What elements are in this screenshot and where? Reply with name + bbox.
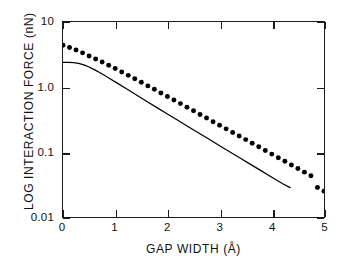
xtick-label-3: 3 <box>205 221 235 233</box>
xtick-mark-top-4 <box>273 22 274 29</box>
data-point <box>165 94 170 99</box>
xtick-mark-1 <box>116 210 117 217</box>
data-point <box>63 43 65 48</box>
data-point <box>302 170 307 175</box>
ytick-mark-1 <box>63 88 70 89</box>
data-point <box>132 76 137 81</box>
data-point <box>178 101 183 106</box>
xtick-mark-0 <box>63 210 64 217</box>
data-point <box>282 159 287 164</box>
data-point <box>230 130 235 135</box>
xtick-label-2: 2 <box>152 221 182 233</box>
data-point <box>269 152 274 157</box>
data-point <box>80 50 85 55</box>
ytick-mark-10 <box>63 22 70 23</box>
xtick-mark-top-3 <box>221 22 222 29</box>
data-point <box>211 119 216 124</box>
data-point <box>308 173 313 178</box>
data-point <box>295 166 300 171</box>
series-points-0 <box>63 43 324 194</box>
data-point <box>74 48 79 53</box>
data-point <box>145 83 150 88</box>
data-point <box>93 56 98 61</box>
data-point <box>256 144 261 149</box>
xtick-mark-5 <box>325 210 326 217</box>
xtick-label-1: 1 <box>100 221 130 233</box>
x-axis-title: GAP WIDTH (Å) <box>62 242 325 256</box>
xtick-mark-4 <box>273 210 274 217</box>
data-point <box>100 60 105 65</box>
ytick-mark-right-10 <box>317 22 324 23</box>
ytick-mark-0.01 <box>63 218 70 219</box>
data-point <box>217 123 222 128</box>
xtick-mark-top-1 <box>116 22 117 29</box>
xtick-label-5: 5 <box>310 221 340 233</box>
data-point <box>263 148 268 153</box>
data-point <box>250 141 255 146</box>
xtick-mark-2 <box>168 210 169 217</box>
data-point <box>191 108 196 113</box>
xtick-mark-top-5 <box>325 22 326 29</box>
data-point <box>322 189 324 194</box>
ytick-mark-0.1 <box>63 153 70 154</box>
data-point <box>67 45 72 50</box>
plot-area <box>62 21 325 218</box>
data-point <box>204 116 209 121</box>
data-point <box>158 90 163 95</box>
data-point <box>243 137 248 142</box>
figure: 0 1 2 3 4 5 10 1.0 0.1 0.01 GAP WIDTH (Å… <box>0 0 343 272</box>
data-point <box>224 126 229 131</box>
xtick-mark-3 <box>221 210 222 217</box>
data-point <box>126 73 131 78</box>
ytick-mark-right-0.1 <box>317 153 324 154</box>
data-point <box>106 63 111 68</box>
data-point <box>315 185 320 190</box>
xtick-label-4: 4 <box>257 221 287 233</box>
data-point <box>237 134 242 139</box>
series-line-1 <box>63 62 290 187</box>
data-point <box>171 98 176 103</box>
ytick-mark-right-0.01 <box>317 218 324 219</box>
data-point <box>113 66 118 71</box>
data-point <box>184 105 189 110</box>
data-point <box>276 155 281 160</box>
data-point <box>152 87 157 92</box>
data-point <box>289 162 294 167</box>
data-point <box>119 70 124 75</box>
data-point <box>139 80 144 85</box>
plot-canvas <box>63 22 324 217</box>
ytick-label-0.01: 0.01 <box>8 211 54 223</box>
xtick-mark-top-2 <box>168 22 169 29</box>
y-axis-title: LOG INTERACTION FORCE (nN) <box>22 10 36 210</box>
data-point <box>87 54 92 59</box>
ytick-mark-right-1 <box>317 88 324 89</box>
data-point <box>198 112 203 117</box>
